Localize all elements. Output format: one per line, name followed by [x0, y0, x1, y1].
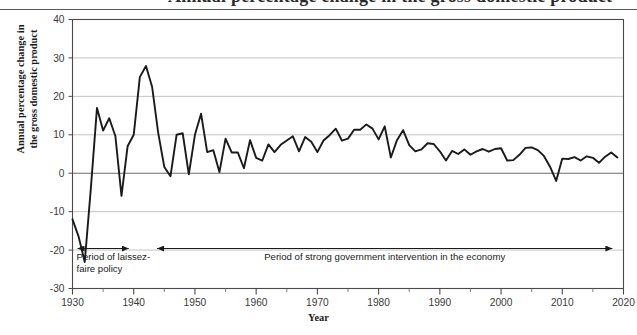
x-tick-label: 1970 [306, 297, 329, 308]
annotations-group: Period of laissez-faire policyPeriod of … [77, 249, 613, 275]
series-line [73, 66, 618, 262]
y-tick-label: 10 [53, 129, 65, 140]
x-tick-label: 2000 [490, 297, 513, 308]
line-chart: -30-20-10010203040 193019401950196019701… [0, 0, 637, 335]
x-tick-label: 1980 [367, 297, 390, 308]
annotation-label-laissez-faire: Period of laissez-faire policy [77, 251, 151, 274]
y-axis-ticks: -30-20-10010203040 [50, 14, 73, 294]
x-tick-label: 1990 [428, 297, 451, 308]
x-tick-label: 1940 [122, 297, 145, 308]
y-tick-label: 30 [53, 53, 65, 64]
y-tick-label: 40 [53, 14, 65, 25]
annotation-label-gov-intervention: Period of strong government intervention… [264, 251, 505, 262]
y-tick-label: 20 [53, 91, 65, 102]
y-tick-label: -30 [50, 283, 65, 294]
x-axis-ticks: 1930194019501960197019801990200020102020 [61, 289, 635, 308]
y-tick-label: -20 [50, 245, 65, 256]
data-series-line [73, 66, 618, 262]
y-tick-label: 0 [59, 168, 65, 179]
x-tick-label: 2020 [612, 297, 635, 308]
x-tick-label: 1930 [61, 297, 84, 308]
x-tick-label: 2010 [551, 297, 574, 308]
figure-container: Annual percentage change in the gross do… [0, 0, 637, 335]
y-tick-label: -10 [50, 206, 65, 217]
x-tick-label: 1950 [184, 297, 207, 308]
x-tick-label: 1960 [245, 297, 268, 308]
